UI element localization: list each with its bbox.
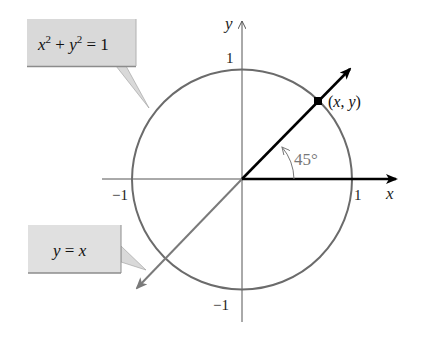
y-axis-label: y: [223, 14, 233, 33]
angle-label: 45°: [294, 150, 318, 169]
svg-text:y = x: y = x: [51, 241, 87, 260]
y-tick-neg: −1: [213, 297, 229, 313]
x-axis-label: x: [385, 184, 394, 203]
x-tick-neg: −1: [112, 187, 128, 203]
unit-circle-diagram: 1 −1 1 −1 x y (x, y) 45° x2 + y2 = 1 y =…: [0, 0, 426, 340]
point-marker: [314, 97, 322, 105]
callout-line-equation: y = x: [28, 225, 146, 273]
callout-circle-equation: x2 + y2 = 1: [27, 19, 149, 108]
angle-arc: [282, 147, 294, 179]
point-label: (x, y): [328, 93, 361, 111]
line-y-equals-x: [137, 179, 242, 288]
y-tick-pos: 1: [226, 50, 234, 66]
x-tick-pos: 1: [354, 187, 362, 203]
